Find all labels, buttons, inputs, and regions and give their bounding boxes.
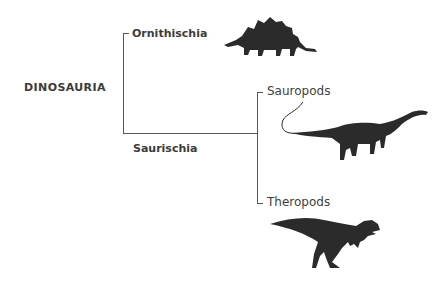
ornithischia-branch-vertical xyxy=(123,33,124,134)
saurischia-label: Saurischia xyxy=(133,142,197,155)
theropods-tick xyxy=(257,203,263,204)
sauropods-label: Sauropods xyxy=(267,84,330,98)
theropods-label: Theropods xyxy=(267,195,330,209)
stegosaurus-icon xyxy=(220,12,320,62)
saurischia-bracket-vertical xyxy=(257,92,258,204)
ornithischia-branch-tick xyxy=(123,33,129,34)
root-label: DINOSAURIA xyxy=(24,81,106,94)
sauropods-tick xyxy=(257,92,263,93)
theropod-icon xyxy=(268,212,398,272)
ornithischia-label: Ornithischia xyxy=(132,27,207,40)
saurischia-branch-horizontal xyxy=(123,133,258,134)
sauropod-icon xyxy=(278,100,438,170)
